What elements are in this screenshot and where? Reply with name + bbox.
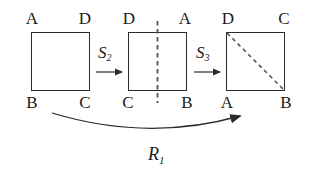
operation-s2-symbol: S (98, 43, 107, 62)
square-2-shape (128, 32, 187, 91)
composite-r1-symbol: R (148, 144, 159, 164)
composite-r1-arc (52, 113, 240, 128)
operation-s3-subscript: 3 (205, 52, 210, 63)
composite-r1-label: R1 (148, 145, 165, 163)
square-3-label-top-left: D (218, 10, 238, 27)
square-2-label-bottom-right: B (177, 94, 197, 111)
square-3-label-bottom-right: B (276, 94, 296, 111)
operation-s3-label: S3 (196, 44, 210, 61)
square-1-shape (31, 32, 90, 91)
square-2-label-top-left: D (119, 10, 139, 27)
operation-s2-subscript: 2 (107, 52, 112, 63)
square-3-label-bottom-left: A (217, 94, 237, 111)
figure-canvas: A D B C S2 D A C B S3 D C A B (0, 0, 315, 174)
square-1-label-bottom-right: C (75, 94, 95, 111)
square-2-label-bottom-left: C (118, 94, 138, 111)
composite-r1-subscript: 1 (159, 154, 165, 166)
square-3-label-top-right: C (274, 10, 294, 27)
operation-s3-symbol: S (196, 43, 205, 62)
square-1-label-bottom-left: B (22, 94, 42, 111)
operation-s2-label: S2 (98, 44, 112, 61)
square-3-shape (226, 32, 285, 91)
square-2-label-top-right: A (175, 10, 195, 27)
square-1-label-top-right: D (75, 10, 95, 27)
square-1-label-top-left: A (22, 10, 42, 27)
